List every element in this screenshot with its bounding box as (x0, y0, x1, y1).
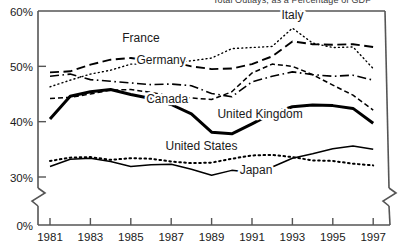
x-tick-label: 1985 (118, 231, 144, 243)
series-label-canada: Canada (146, 92, 188, 106)
series-line-canada (50, 64, 373, 110)
x-tick-label: 1997 (360, 231, 386, 243)
series-label-united-states: United States (165, 139, 237, 153)
line-chart: 60%50%40%30%0% 1981198319851987198919911… (0, 0, 410, 250)
y-tick-label: 50% (10, 61, 33, 73)
x-tick-label: 1991 (239, 231, 265, 243)
series-label-japan: Japan (240, 163, 273, 177)
y-tick-label: 40% (10, 116, 33, 128)
series-line-italy (50, 28, 373, 87)
series-label-germany: Germany (136, 53, 185, 67)
y-axis: 60%50%40%30%0% (10, 6, 396, 232)
y-tick-label: 60% (10, 6, 33, 18)
y-tick-label: 30% (10, 172, 33, 184)
chart-container: Total Outlays, as a Percentage of GDP 60… (0, 0, 410, 250)
y-tick-label: 0% (16, 220, 33, 232)
series-labels: ItalyItalyFranceFranceGermanyGermanyCana… (122, 8, 303, 177)
x-tick-label: 1995 (320, 231, 346, 243)
series-label-united-kingdom: United Kingdom (217, 107, 302, 121)
x-tick-label: 1987 (158, 231, 184, 243)
series-line-united-kingdom (50, 90, 373, 134)
series-line-france (50, 41, 373, 72)
x-tick-label: 1981 (37, 231, 63, 243)
x-axis: 198119831985198719891991199319951997 (37, 218, 390, 243)
x-tick-label: 1989 (199, 231, 225, 243)
x-tick-label: 1993 (280, 231, 306, 243)
x-tick-label: 1983 (78, 231, 104, 243)
series-label-france: France (122, 31, 160, 45)
series-label-italy: Italy (281, 8, 303, 22)
